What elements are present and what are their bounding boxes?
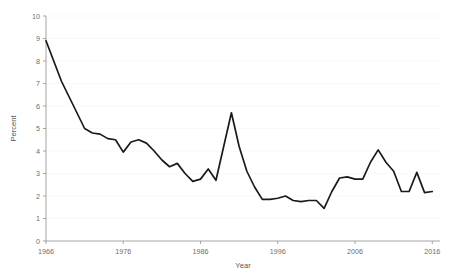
line-chart-figure: 012345678910 196619761986199620062016 Ye… bbox=[0, 0, 449, 275]
y-tick-label: 3 bbox=[36, 169, 40, 178]
x-tick-label: 1986 bbox=[193, 247, 209, 256]
x-tick-label: 1976 bbox=[115, 247, 131, 256]
x-axis-title: Year bbox=[235, 261, 251, 270]
chart-background bbox=[0, 0, 449, 275]
y-tick-label: 4 bbox=[36, 147, 40, 156]
y-tick-label: 6 bbox=[36, 102, 40, 111]
x-tick-label: 2006 bbox=[347, 247, 363, 256]
x-tick-label: 1966 bbox=[38, 247, 54, 256]
y-tick-label: 5 bbox=[36, 124, 40, 133]
y-tick-label: 0 bbox=[36, 237, 40, 246]
y-tick-label: 7 bbox=[36, 79, 40, 88]
y-axis-title: Percent bbox=[9, 115, 18, 142]
y-tick-label: 1 bbox=[36, 214, 40, 223]
x-tick-label: 1996 bbox=[270, 247, 286, 256]
x-tick-label: 2016 bbox=[424, 247, 440, 256]
y-tick-label: 2 bbox=[36, 192, 40, 201]
chart-canvas: 012345678910 196619761986199620062016 Ye… bbox=[0, 0, 449, 275]
y-tick-label: 9 bbox=[36, 34, 40, 43]
y-tick-label: 10 bbox=[32, 12, 40, 21]
y-tick-label: 8 bbox=[36, 57, 40, 66]
